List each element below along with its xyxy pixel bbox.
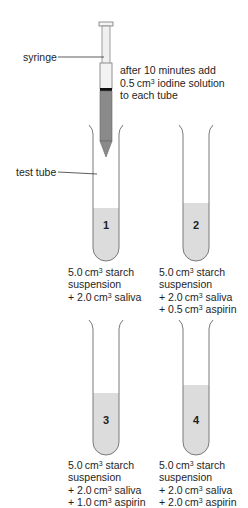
caption-line: + 2.0 cm3 saliva — [159, 291, 237, 303]
test-tube-4 — [179, 320, 213, 455]
syringe-label: syringe — [23, 51, 57, 64]
caption-line: 5.0 cm3 starch — [159, 266, 237, 278]
test-tube-label: test tube — [16, 166, 56, 179]
caption-line: + 1.0 cm3 aspirin — [68, 496, 146, 508]
instruction-line-3: to each tube — [120, 89, 225, 102]
caption-line: suspension — [68, 278, 141, 290]
tube-2-caption: 5.0 cm3 starch suspension + 2.0 cm3 sali… — [159, 266, 237, 315]
caption-line: + 2.0 cm3 aspirin — [159, 496, 237, 508]
caption-line: 5.0 cm3 starch — [159, 459, 237, 471]
instruction-text: after 10 minutes add 0.5 cm3 iodine solu… — [120, 64, 225, 102]
caption-line: 5.0 cm3 starch — [68, 459, 146, 471]
caption-line: + 0.5 cm3 aspirin — [159, 303, 237, 315]
tube-3-caption: 5.0 cm3 starch suspension + 2.0 cm3 sali… — [68, 459, 146, 508]
caption-line: 5.0 cm3 starch — [68, 266, 141, 278]
caption-line: suspension — [159, 278, 237, 290]
caption-line: suspension — [159, 471, 237, 483]
tube-4-caption: 5.0 cm3 starch suspension + 2.0 cm3 sali… — [159, 459, 237, 508]
tube-3-number: 3 — [92, 414, 120, 426]
caption-line: + 2.0 cm3 saliva — [159, 484, 237, 496]
tube-2-number: 2 — [182, 219, 210, 231]
caption-line: + 2.0 cm3 saliva — [68, 484, 146, 496]
tube-4-number: 4 — [182, 414, 210, 426]
test-tube-leader-line — [58, 172, 97, 174]
instruction-line-1: after 10 minutes add — [120, 64, 225, 77]
test-tube-2 — [179, 125, 213, 261]
tube-1-caption: 5.0 cm3 starch suspension + 2.0 cm3 sali… — [68, 266, 141, 303]
caption-line: + 2.0 cm3 saliva — [68, 291, 141, 303]
tube-1-number: 1 — [92, 219, 120, 231]
caption-line: suspension — [68, 471, 146, 483]
test-tube-3 — [89, 320, 123, 455]
instruction-line-2: 0.5 cm3 iodine solution — [120, 77, 225, 90]
syringe-icon — [99, 22, 113, 157]
